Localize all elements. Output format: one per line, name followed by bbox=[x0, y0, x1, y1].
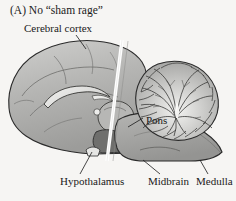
leader-midbrain bbox=[143, 160, 160, 174]
label-hypothalamus: Hypothalamus bbox=[60, 176, 124, 187]
cerebellum-outline bbox=[136, 61, 219, 140]
label-cerebral-cortex: Cerebral cortex bbox=[24, 23, 92, 34]
label-midbrain: Midbrain bbox=[148, 176, 189, 187]
label-medulla: Medulla bbox=[196, 176, 233, 187]
label-pons: Pons bbox=[146, 115, 167, 126]
cerebellum-group bbox=[136, 61, 219, 140]
panel-heading: (A) No “sham rage” bbox=[10, 5, 103, 17]
brain-figure: (A) No “sham rage” Cerebral cortex Pons … bbox=[0, 0, 236, 201]
leader-hypothalamus bbox=[80, 152, 92, 174]
leader-medulla bbox=[200, 160, 208, 174]
